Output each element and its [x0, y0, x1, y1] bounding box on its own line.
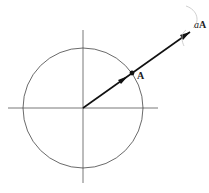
point-A: [130, 71, 135, 76]
label-aA: aA: [194, 19, 207, 30]
label-A: A: [137, 70, 145, 81]
diagram-canvas: A aA: [0, 0, 209, 193]
